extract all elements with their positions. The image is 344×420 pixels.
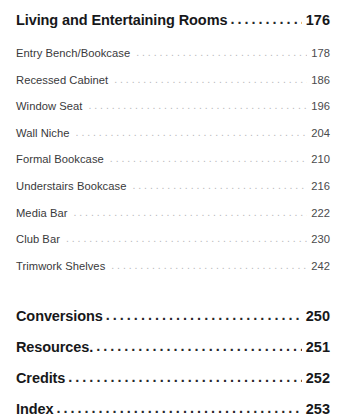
entry-title: Club Bar: [16, 233, 60, 245]
list-item[interactable]: Wall Niche .............................…: [16, 127, 330, 154]
entry-page-number: 210: [310, 153, 330, 165]
entry-page-number: 230: [310, 233, 330, 245]
section-page-number: 252: [304, 370, 330, 386]
dot-leader: ........................................…: [88, 99, 307, 111]
leader-dots: ........................................…: [66, 232, 307, 244]
leader-dots: ........................................…: [106, 307, 302, 323]
entry-title: Understairs Bookcase: [16, 180, 126, 192]
leader-dots: ........................................…: [136, 46, 307, 58]
entry-title: Entry Bench/Bookcase: [16, 47, 130, 59]
leader-dots: ........................................…: [96, 338, 302, 354]
toc-section-heading[interactable]: Resources. .............................…: [16, 339, 330, 370]
entry-page-number: 204: [310, 127, 330, 139]
section-title: Credits: [16, 370, 65, 386]
dot-leader: ........................................…: [68, 369, 302, 385]
list-item[interactable]: Trimwork Shelves .......................…: [16, 260, 330, 287]
entry-title: Trimwork Shelves: [16, 260, 105, 272]
entry-page-number: 242: [310, 260, 330, 272]
leader-dots: ........................................…: [114, 73, 307, 85]
entry-page-number: 196: [310, 100, 330, 112]
list-item[interactable]: Understairs Bookcase ...................…: [16, 180, 330, 207]
list-item[interactable]: Window Seat ............................…: [16, 100, 330, 127]
entry-page-number: 186: [310, 74, 330, 86]
section-page-number: 250: [304, 308, 330, 324]
leader-dots: ........................................…: [56, 400, 302, 416]
entry-title: Recessed Cabinet: [16, 74, 108, 86]
dot-leader: ........................................…: [66, 232, 307, 244]
entry-page-number: 222: [310, 207, 330, 219]
toc-section-heading[interactable]: Conversions ............................…: [16, 308, 330, 339]
dot-leader: ........................................…: [73, 206, 307, 218]
section-title: Resources.: [16, 339, 93, 355]
toc-section-heading[interactable]: Index ..................................…: [16, 401, 330, 420]
leader-dots: ........................................…: [88, 99, 307, 111]
section-title: Index: [16, 401, 53, 417]
entry-title: Formal Bookcase: [16, 153, 104, 165]
dot-leader: ........................................…: [56, 400, 302, 416]
leader-dots: ........................................…: [68, 369, 302, 385]
list-item[interactable]: Recessed Cabinet .......................…: [16, 74, 330, 101]
list-item[interactable]: Media Bar ..............................…: [16, 207, 330, 234]
entry-title: Wall Niche: [16, 127, 70, 139]
dot-leader: ........................................…: [111, 259, 307, 271]
list-item[interactable]: Club Bar ...............................…: [16, 233, 330, 260]
list-item[interactable]: Formal Bookcase ........................…: [16, 153, 330, 180]
dot-leader: ........................................…: [114, 73, 307, 85]
dot-leader: ........................................…: [96, 338, 302, 354]
leader-dots: ........................................…: [132, 179, 307, 191]
dot-leader: ........................................…: [106, 307, 302, 323]
toc-section-heading[interactable]: Credits ................................…: [16, 370, 330, 401]
section-title: Conversions: [16, 308, 103, 324]
dot-leader: ........................................…: [230, 11, 302, 27]
toc-entry-list: Entry Bench/Bookcase ...................…: [16, 47, 330, 286]
leader-dots: ........................................…: [111, 259, 307, 271]
dot-leader: ........................................…: [110, 152, 307, 164]
toc-section-heading[interactable]: Living and Entertaining Rooms ..........…: [16, 12, 330, 43]
entry-title: Media Bar: [16, 207, 67, 219]
dot-leader: ........................................…: [136, 46, 307, 58]
section-spacer: [16, 286, 330, 308]
leader-dots: ........................................…: [73, 206, 307, 218]
leader-dots: ........................................…: [230, 11, 302, 27]
section-page-number: 251: [304, 339, 330, 355]
section-page-number: 176: [304, 12, 330, 28]
entry-page-number: 178: [310, 47, 330, 59]
list-item[interactable]: Entry Bench/Bookcase ...................…: [16, 47, 330, 74]
dot-leader: ........................................…: [76, 126, 307, 138]
section-title: Living and Entertaining Rooms: [16, 12, 227, 28]
section-page-number: 253: [304, 401, 330, 417]
toc-back-matter-list: Conversions ............................…: [16, 308, 330, 420]
dot-leader: ........................................…: [132, 179, 307, 191]
leader-dots: ........................................…: [76, 126, 307, 138]
leader-dots: ........................................…: [110, 152, 307, 164]
table-of-contents: Living and Entertaining Rooms ..........…: [0, 0, 344, 420]
entry-page-number: 216: [310, 180, 330, 192]
entry-title: Window Seat: [16, 100, 82, 112]
